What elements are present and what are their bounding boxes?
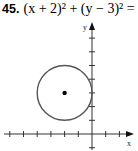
circle-graph: y x <box>0 0 138 151</box>
x-axis-arrow-icon <box>126 131 134 137</box>
y-axis-label: y <box>83 23 87 32</box>
center-point <box>62 91 66 95</box>
y-axis-arrow-icon <box>89 22 95 30</box>
x-axis-label: x <box>127 139 131 148</box>
